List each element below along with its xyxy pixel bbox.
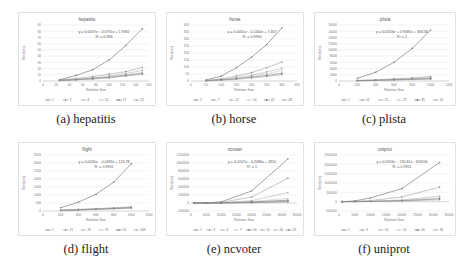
svg-text:10000: 10000 xyxy=(217,213,226,217)
svg-text:16000: 16000 xyxy=(328,30,337,34)
svg-text:160: 160 xyxy=(146,83,152,87)
svg-text:90: 90 xyxy=(37,23,41,27)
svg-text:30: 30 xyxy=(37,61,41,65)
svg-text:0: 0 xyxy=(335,200,337,204)
chart-title: uniprot xyxy=(378,147,393,152)
svg-text:600: 600 xyxy=(391,83,397,87)
svg-text:10: 10 xyxy=(385,228,389,232)
svg-text:400: 400 xyxy=(373,83,379,87)
svg-text:40: 40 xyxy=(37,54,41,58)
svg-text:100: 100 xyxy=(184,65,190,69)
svg-text:1000: 1000 xyxy=(34,193,41,197)
svg-text:R² = 1: R² = 1 xyxy=(397,35,407,39)
svg-text:800: 800 xyxy=(410,83,416,87)
svg-text:15: 15 xyxy=(266,228,270,232)
svg-text:y = 0.0026x² - 0.0333x + 123.7: y = 0.0026x² - 0.0333x + 123.78 xyxy=(79,160,130,164)
svg-text:1200000: 1200000 xyxy=(177,153,190,157)
svg-text:60: 60 xyxy=(81,83,85,87)
svg-text:Relation Size: Relation Size xyxy=(384,218,404,222)
svg-text:35: 35 xyxy=(421,98,425,102)
svg-text:11: 11 xyxy=(366,98,370,102)
svg-text:11: 11 xyxy=(70,228,74,232)
svg-text:20: 20 xyxy=(37,67,41,71)
svg-text:4: 4 xyxy=(227,228,229,232)
svg-text:1: 1 xyxy=(348,98,350,102)
svg-text:8000: 8000 xyxy=(330,54,337,58)
svg-text:1000000: 1000000 xyxy=(177,161,190,165)
svg-text:25: 25 xyxy=(293,228,297,232)
svg-text:1000: 1000 xyxy=(427,83,434,87)
svg-text:200: 200 xyxy=(249,83,255,87)
caption-f: (f) uniprot xyxy=(314,242,454,257)
svg-text:35000: 35000 xyxy=(445,213,454,217)
svg-text:1000000: 1000000 xyxy=(325,181,338,185)
svg-text:12000: 12000 xyxy=(328,42,337,46)
svg-text:20000: 20000 xyxy=(247,213,256,217)
svg-text:350: 350 xyxy=(294,83,300,87)
svg-text:14: 14 xyxy=(253,98,257,102)
svg-text:y = 0.0153x² + 0.9081x + 303.3: y = 0.0153x² + 0.9081x + 303.36 xyxy=(376,30,428,34)
svg-text:600: 600 xyxy=(93,213,99,217)
svg-text:5000: 5000 xyxy=(351,213,358,217)
svg-text:y = 0.0194x² - 130.82x - 40910: y = 0.0194x² - 130.82x - 409106 xyxy=(376,160,427,164)
svg-text:y = 0.0051x² - 0.1562x + 7.357: y = 0.0051x² - 0.1562x + 7.357 xyxy=(228,30,277,34)
svg-text:250: 250 xyxy=(184,44,190,48)
svg-text:Time(ms): Time(ms) xyxy=(318,46,322,60)
chart-uniprot: uniprot-50000005000001000000150000020000… xyxy=(314,142,456,236)
svg-text:-500000: -500000 xyxy=(325,209,337,213)
svg-text:200000: 200000 xyxy=(178,193,189,197)
svg-text:0: 0 xyxy=(187,201,189,205)
svg-text:200: 200 xyxy=(355,83,361,87)
svg-text:4000: 4000 xyxy=(330,67,337,71)
svg-text:R² = 0.9951: R² = 0.9951 xyxy=(393,165,412,169)
svg-text:35000: 35000 xyxy=(293,213,302,217)
svg-text:1500: 1500 xyxy=(34,185,41,189)
svg-text:400: 400 xyxy=(76,213,82,217)
chart-title: plista xyxy=(380,17,391,22)
svg-text:20: 20 xyxy=(421,228,425,232)
svg-text:300: 300 xyxy=(184,37,190,41)
svg-text:400: 400 xyxy=(184,23,190,27)
svg-text:20: 20 xyxy=(54,83,58,87)
svg-text:30000: 30000 xyxy=(429,213,438,217)
caption-d: (d) flight xyxy=(18,242,154,257)
svg-text:0: 0 xyxy=(42,213,44,217)
svg-text:1200: 1200 xyxy=(445,83,452,87)
svg-text:17: 17 xyxy=(123,98,127,102)
svg-text:R² = 0.996: R² = 0.996 xyxy=(96,35,113,39)
svg-text:-200000: -200000 xyxy=(177,209,189,213)
svg-text:120: 120 xyxy=(120,83,126,87)
svg-text:Time(ms): Time(ms) xyxy=(170,46,174,60)
svg-text:350: 350 xyxy=(184,30,190,34)
svg-text:0: 0 xyxy=(335,79,337,83)
svg-text:12: 12 xyxy=(235,98,239,102)
caption-b: (b) horse xyxy=(166,112,302,127)
svg-text:0: 0 xyxy=(42,83,44,87)
svg-text:0: 0 xyxy=(39,79,41,83)
svg-text:1: 1 xyxy=(348,228,350,232)
svg-text:Time(ms): Time(ms) xyxy=(170,176,174,190)
svg-text:R² = 0.9931: R² = 0.9931 xyxy=(95,165,114,169)
svg-text:7: 7 xyxy=(240,228,242,232)
svg-text:Relation Size: Relation Size xyxy=(234,218,254,222)
svg-text:25000: 25000 xyxy=(413,213,422,217)
svg-text:37: 37 xyxy=(105,228,109,232)
chart-title: horse xyxy=(229,17,241,22)
svg-text:2: 2 xyxy=(70,98,72,102)
svg-text:800: 800 xyxy=(111,213,117,217)
svg-text:3: 3 xyxy=(213,228,215,232)
svg-text:0: 0 xyxy=(338,83,340,87)
svg-text:2000: 2000 xyxy=(330,73,337,77)
svg-text:2500000: 2500000 xyxy=(325,153,338,157)
svg-text:500000: 500000 xyxy=(326,191,337,195)
svg-text:5000: 5000 xyxy=(203,213,210,217)
svg-text:6000: 6000 xyxy=(330,61,337,65)
svg-text:600000: 600000 xyxy=(178,177,189,181)
svg-text:27: 27 xyxy=(403,98,407,102)
svg-text:10000: 10000 xyxy=(366,213,375,217)
svg-text:1: 1 xyxy=(200,98,202,102)
svg-text:R² = 1: R² = 1 xyxy=(247,165,257,169)
chart-horse: horse05010015020025030035040005010015020… xyxy=(166,12,304,106)
svg-text:50: 50 xyxy=(185,72,189,76)
svg-text:y = 0.0107x² - 0.2086x + 2810: y = 0.0107x² - 0.2086x + 2810 xyxy=(228,160,276,164)
